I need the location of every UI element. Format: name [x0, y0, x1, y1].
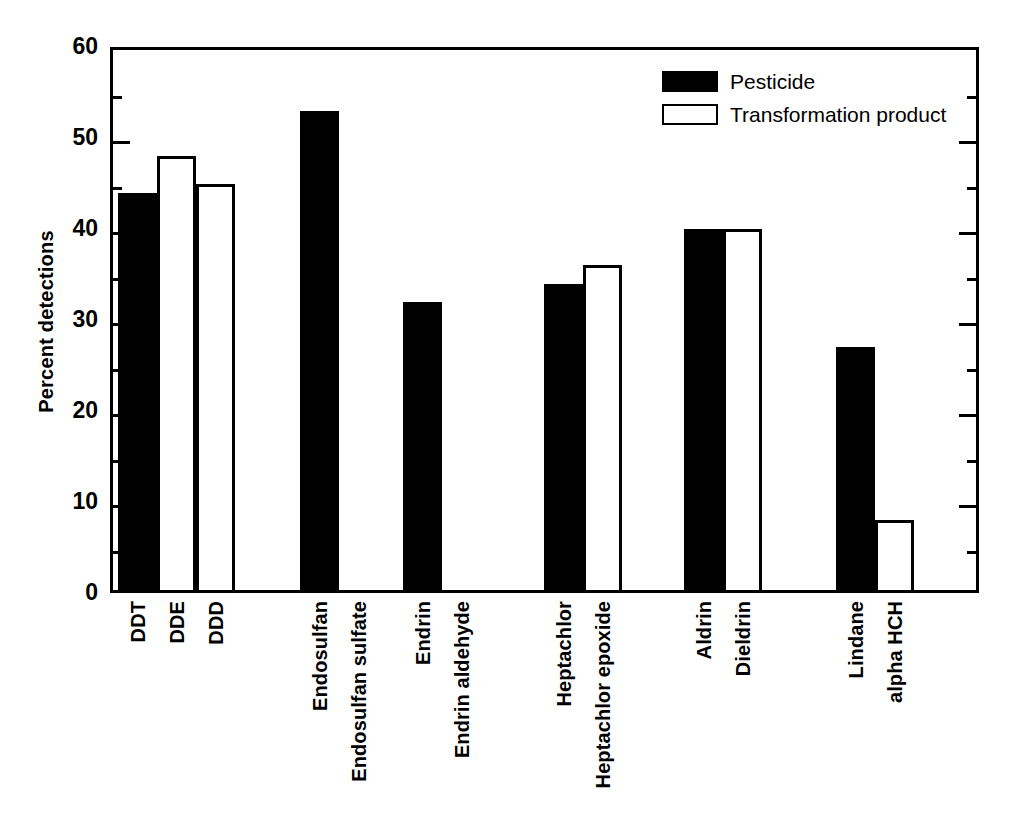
y-tick-label-30: 30 — [8, 308, 98, 331]
bar-dde — [157, 156, 196, 593]
bar-endrin — [403, 302, 442, 593]
legend-item-transformation-product: Transformation product — [662, 99, 962, 129]
x-tick-label-wrap: Dieldrin — [723, 593, 762, 840]
x-tick-label-wrap: Heptachlor epoxide — [583, 593, 622, 840]
x-tick-label-wrap: alpha HCH — [875, 593, 914, 840]
x-tick-label-wrap: Aldrin — [684, 593, 723, 840]
bar-dieldrin — [723, 229, 762, 593]
x-tick-label-endrin-aldehyde: Endrin aldehyde — [452, 601, 472, 758]
x-tick-label-wrap: Lindane — [836, 593, 875, 840]
y-tick-label-10: 10 — [8, 490, 98, 513]
legend-label-transformation-product: Transformation product — [730, 104, 946, 125]
x-tick-label-wrap: DDD — [196, 593, 235, 840]
legend: Pesticide Transformation product — [662, 66, 962, 132]
bar-alpha-hch — [875, 520, 914, 593]
x-tick-label-endosulfan: Endosulfan — [310, 601, 330, 711]
bar-heptachlor — [544, 284, 583, 593]
x-tick-label-wrap: Heptachlor — [544, 593, 583, 840]
legend-swatch-open-icon — [662, 104, 718, 125]
x-tick-label-endrin: Endrin — [413, 601, 433, 665]
x-tick-label-heptachlor: Heptachlor — [554, 601, 574, 706]
x-tick-label-lindane: Lindane — [846, 601, 866, 678]
x-tick-label-ddd: DDD — [206, 601, 226, 645]
x-tick-label-wrap: Endosulfan — [300, 593, 339, 840]
bar-ddt — [118, 193, 157, 593]
bar-lindane — [836, 347, 875, 593]
bar-chart-figure: Percent detections 0102030405060 DDTDDED… — [0, 0, 1021, 840]
x-axis-tick-labels: DDTDDEDDDEndosulfanEndosulfan sulfateEnd… — [110, 593, 979, 840]
x-tick-label-dieldrin: Dieldrin — [733, 601, 753, 676]
legend-label-pesticide: Pesticide — [730, 71, 815, 92]
y-tick-label-40: 40 — [8, 217, 98, 240]
x-tick-label-wrap: DDE — [157, 593, 196, 840]
y-tick-label-50: 50 — [8, 126, 98, 149]
bar-ddd — [196, 184, 235, 594]
x-tick-label-dde: DDE — [167, 601, 187, 644]
x-tick-label-endosulfan-sulfate: Endosulfan sulfate — [349, 601, 369, 782]
x-tick-label-wrap: Endrin — [403, 593, 442, 840]
x-tick-label-wrap: Endosulfan sulfate — [339, 593, 378, 840]
x-tick-label-wrap: DDT — [118, 593, 157, 840]
bar-endosulfan — [300, 111, 339, 593]
x-tick-label-wrap: Endrin aldehyde — [442, 593, 481, 840]
x-tick-label-aldrin: Aldrin — [694, 601, 714, 659]
x-tick-label-alpha-hch: alpha HCH — [885, 601, 905, 703]
y-tick-label-20: 20 — [8, 399, 98, 422]
x-tick-label-ddt: DDT — [128, 601, 148, 642]
x-tick-label-heptachlor-epoxide: Heptachlor epoxide — [593, 601, 613, 788]
y-tick-label-60: 60 — [8, 35, 98, 58]
legend-item-pesticide: Pesticide — [662, 66, 962, 96]
y-tick-label-0: 0 — [8, 581, 98, 604]
legend-swatch-filled-icon — [662, 71, 718, 92]
bar-heptachlor-epoxide — [583, 265, 622, 593]
bar-aldrin — [684, 229, 723, 593]
